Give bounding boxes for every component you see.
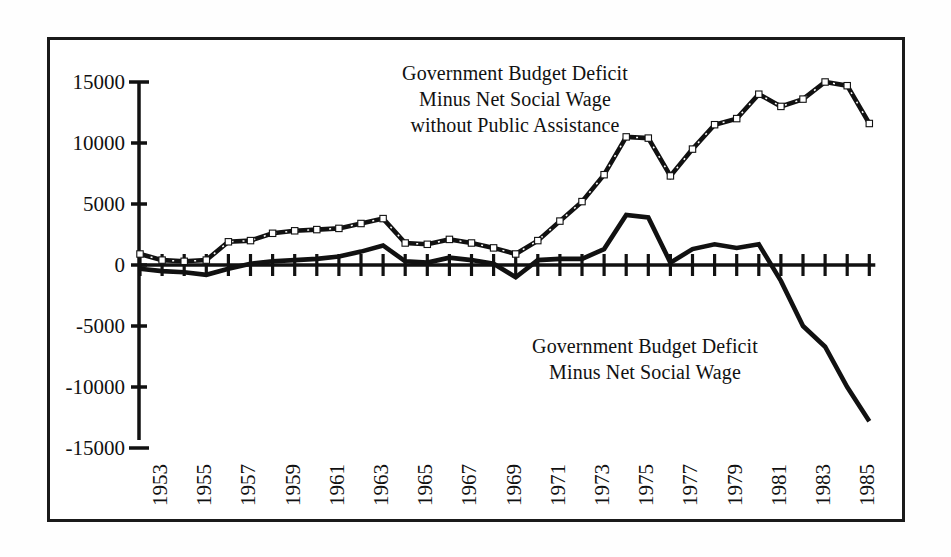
x-tick-label-8: 1969 (502, 464, 527, 506)
series-marker-0-16 (490, 245, 496, 251)
y-tick-label-2: 5000 (60, 192, 125, 217)
annotation-lower-series-label: Government Budget Deficit Minus Net Soci… (470, 333, 820, 385)
series-marker-0-20 (579, 198, 585, 204)
y-tick-label-3: 0 (60, 253, 125, 278)
x-tick-label-16: 1985 (855, 464, 880, 506)
series-marker-0-25 (689, 146, 695, 152)
series-marker-0-3 (203, 257, 209, 263)
x-tick-label-0: 1953 (148, 464, 173, 506)
series-marker-0-10 (358, 220, 364, 226)
series-marker-0-8 (314, 226, 320, 232)
x-tick-label-1: 1955 (192, 464, 217, 506)
y-tick-label-4: -5000 (60, 314, 125, 339)
series-marker-0-6 (269, 230, 275, 236)
series-marker-0-11 (380, 215, 386, 221)
x-tick-label-6: 1965 (413, 464, 438, 506)
series-marker-0-5 (247, 237, 253, 243)
x-tick-label-7: 1967 (457, 464, 482, 506)
x-tick-label-12: 1977 (678, 464, 703, 506)
series-marker-0-0 (137, 251, 143, 257)
series-marker-0-4 (225, 239, 231, 245)
x-tick-label-5: 1963 (369, 464, 394, 506)
series-marker-0-24 (667, 173, 673, 179)
series-marker-0-29 (778, 103, 784, 109)
x-tick-label-2: 1957 (236, 464, 261, 506)
x-tick-label-15: 1983 (811, 464, 836, 506)
series-line-1 (140, 215, 869, 421)
y-tick-label-1: 10000 (60, 131, 125, 156)
series-marker-0-17 (513, 251, 519, 257)
series-marker-0-12 (402, 240, 408, 246)
series-marker-0-28 (756, 91, 762, 97)
y-tick-label-6: -15000 (60, 436, 125, 461)
series-marker-0-30 (800, 96, 806, 102)
annotation-lower-line-1: Government Budget Deficit (470, 333, 820, 359)
y-tick-label-5: -10000 (60, 375, 125, 400)
series-marker-0-19 (557, 218, 563, 224)
series-marker-0-14 (446, 236, 452, 242)
x-tick-label-14: 1981 (767, 464, 792, 506)
series-marker-0-2 (181, 258, 187, 264)
annotation-lower-line-2: Minus Net Social Wage (470, 359, 820, 385)
series-marker-0-18 (535, 237, 541, 243)
figure-canvas: 150001000050000-5000-10000-15000 1953195… (0, 0, 951, 557)
series-marker-0-21 (601, 172, 607, 178)
series-marker-0-26 (711, 122, 717, 128)
series-marker-0-9 (336, 225, 342, 231)
series-1 (140, 215, 869, 421)
series-marker-0-32 (844, 83, 850, 89)
series-marker-0-13 (424, 241, 430, 247)
annotation-upper-line-3: without Public Assistance (320, 112, 710, 138)
series-marker-0-7 (292, 228, 298, 234)
annotation-upper-line-1: Government Budget Deficit (320, 60, 710, 86)
x-tick-label-3: 1959 (281, 464, 306, 506)
series-marker-0-33 (866, 120, 872, 126)
series-marker-0-31 (822, 79, 828, 85)
series-marker-0-1 (159, 257, 165, 263)
x-tick-label-13: 1979 (723, 464, 748, 506)
y-tick-label-0: 15000 (60, 70, 125, 95)
x-tick-label-9: 1971 (546, 464, 571, 506)
x-tick-label-4: 1961 (325, 464, 350, 506)
series-marker-0-15 (468, 240, 474, 246)
annotation-upper-line-2: Minus Net Social Wage (320, 86, 710, 112)
x-tick-label-11: 1975 (634, 464, 659, 506)
series-marker-0-27 (734, 115, 740, 121)
annotation-upper-series-label: Government Budget Deficit Minus Net Soci… (320, 60, 710, 138)
x-tick-label-10: 1973 (590, 464, 615, 506)
